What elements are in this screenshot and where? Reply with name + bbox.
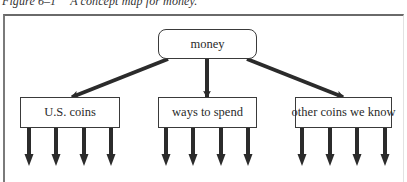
arrow-down-icon	[381, 154, 390, 166]
node-label: other coins we know	[292, 105, 396, 120]
arrow-down-icon	[298, 154, 307, 166]
arrow-down-icon	[52, 154, 61, 166]
node-other-coins-we-know: other coins we know	[295, 97, 392, 128]
leaf-arrows	[25, 128, 390, 166]
concept-map-edges	[0, 0, 407, 182]
leaf-arrow-shaft	[164, 128, 168, 156]
node-label: U.S. coins	[44, 105, 96, 120]
edge-arrow	[72, 59, 168, 97]
leaf-arrow-shaft	[355, 128, 359, 156]
leaf-arrow-shaft	[328, 128, 332, 156]
arrow-down-icon	[244, 154, 253, 166]
arrow-down-icon	[326, 154, 335, 166]
leaf-arrow-shaft	[82, 128, 86, 156]
leaf-arrow-shaft	[54, 128, 58, 156]
leaf-arrow-shaft	[219, 128, 223, 156]
leaf-arrow-shaft	[109, 128, 113, 156]
arrow-down-icon	[162, 154, 171, 166]
leaf-arrow-shaft	[383, 128, 387, 156]
leaf-arrow-shaft	[191, 128, 195, 156]
edge-arrow	[247, 59, 343, 97]
node-label: money	[190, 37, 224, 52]
leaf-arrow-shaft	[246, 128, 250, 156]
node-money: money	[158, 29, 257, 59]
node-us-coins: U.S. coins	[20, 97, 120, 128]
arrow-down-icon	[189, 154, 198, 166]
arrow-down-icon	[353, 154, 362, 166]
leaf-arrow-shaft	[300, 128, 304, 156]
node-ways-to-spend: ways to spend	[158, 97, 257, 128]
leaf-arrow-shaft	[27, 128, 31, 156]
root-to-child-arrows	[72, 59, 343, 97]
arrow-down-icon	[80, 154, 89, 166]
arrow-down-icon	[25, 154, 34, 166]
node-label: ways to spend	[172, 105, 243, 120]
arrow-down-icon	[217, 154, 226, 166]
arrow-down-icon	[107, 154, 116, 166]
